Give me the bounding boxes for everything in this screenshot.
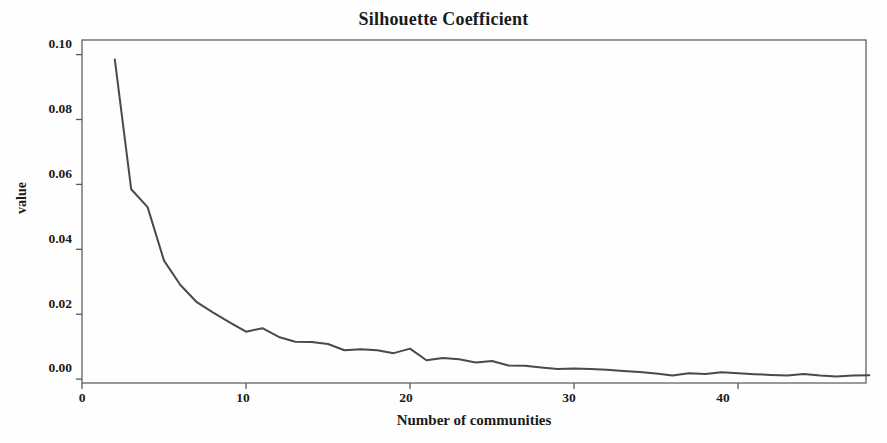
plot-frame [82, 40, 866, 383]
plot-area [0, 0, 887, 443]
data-series-line [115, 59, 869, 376]
chart-figure: Silhouette Coefficient value Number of c… [0, 0, 887, 443]
x-axis-ticks [82, 383, 738, 389]
y-axis-ticks [76, 55, 82, 380]
